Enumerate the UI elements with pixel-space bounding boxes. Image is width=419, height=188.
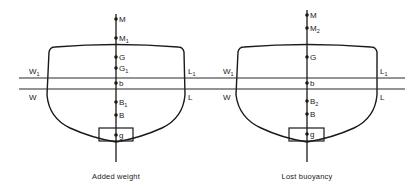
label-l: L	[188, 93, 193, 102]
label-w1: W1	[29, 67, 40, 77]
ship-stability-diagram: W1 W L1 L M M1 G G1 b B1 B	[0, 0, 419, 188]
label-l: L	[380, 93, 385, 102]
svg-text:G: G	[310, 53, 316, 62]
label-w1: W1	[223, 67, 234, 77]
svg-text:M1: M1	[119, 34, 129, 44]
svg-text:M: M	[119, 15, 126, 24]
svg-text:g: g	[119, 131, 123, 140]
svg-text:G: G	[119, 53, 125, 62]
panel-added-weight: W1 W L1 L M M1 G G1 b B1 B	[19, 14, 210, 181]
label-w: W	[29, 93, 37, 102]
caption-lost-buoyancy: Lost buoyancy	[282, 172, 333, 181]
svg-text:M: M	[310, 11, 317, 20]
svg-text:M2: M2	[310, 24, 320, 34]
caption-added-weight: Added weight	[92, 172, 141, 181]
svg-text:B2: B2	[310, 97, 318, 107]
svg-text:B1: B1	[119, 98, 127, 108]
svg-text:b: b	[310, 79, 315, 88]
svg-text:G1: G1	[119, 64, 128, 74]
label-w: W	[223, 93, 231, 102]
svg-text:B: B	[310, 110, 315, 119]
label-l1: L1	[188, 67, 196, 77]
label-l1: L1	[380, 67, 388, 77]
svg-text:g: g	[310, 130, 314, 139]
svg-text:b: b	[119, 79, 124, 88]
svg-text:B: B	[119, 111, 124, 120]
panel-lost-buoyancy: W1 W L1 L M M2 G b B2 B g	[210, 10, 405, 181]
